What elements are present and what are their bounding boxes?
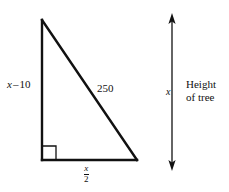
- triangle-hypotenuse: [42, 20, 137, 160]
- fraction-numerator: x: [84, 164, 89, 173]
- right-triangle: [42, 20, 137, 160]
- label-left-leg: x–10: [7, 79, 30, 90]
- caption-line-1: Height: [186, 78, 216, 91]
- caption-line-2: of tree: [186, 91, 216, 104]
- label-hypotenuse: 250: [97, 83, 114, 94]
- fraction-denominator: 2: [84, 175, 89, 184]
- right-angle-marker: [42, 146, 56, 160]
- fraction-x-over-2: x 2: [84, 164, 89, 185]
- label-arrow-measure: x: [165, 86, 171, 98]
- label-left-leg-number: 10: [19, 78, 30, 90]
- geometry-figure: x–10 250 x 2 x Height of tree: [0, 0, 229, 192]
- caption-height-of-tree: Height of tree: [186, 78, 216, 104]
- label-base: x 2: [84, 164, 89, 185]
